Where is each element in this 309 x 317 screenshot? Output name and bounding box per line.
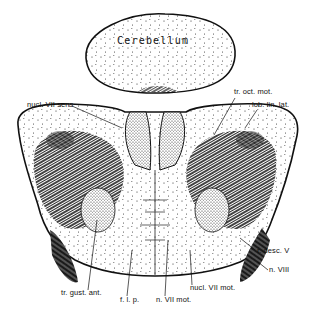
label-lob-lin-lat: lob. lin. lat. <box>252 101 289 109</box>
medulla-shape <box>18 104 298 283</box>
label-n-viii: n. VIII <box>269 266 289 274</box>
label-tr-oct-mot: tr. oct. mot. <box>234 88 272 96</box>
label-n-vii-mot: n. VII mot. <box>156 296 191 304</box>
brainstem-section-illustration <box>0 0 309 317</box>
label-nucl-vii-sens: nucl. VII sens <box>27 101 73 109</box>
label-nucl-vii-mot: nucl. VII mot. <box>190 284 235 292</box>
label-tr-gust-ant: tr. gust. ant. <box>61 289 102 297</box>
cerebellum-shape <box>86 14 235 93</box>
label-cerebellum: Cerebellum <box>117 36 189 46</box>
label-f-l-p: f. l. p. <box>120 296 139 304</box>
label-r-desc-v: r. desc. V <box>257 247 289 255</box>
